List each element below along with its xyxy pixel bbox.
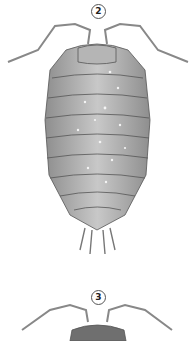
specimen-3 (22, 305, 172, 341)
specimen-label-3: 3 (91, 290, 106, 305)
specimen-label-2: 2 (91, 4, 106, 19)
specimen-2 (8, 24, 188, 254)
illustration-plate: 2 3 (0, 0, 195, 341)
